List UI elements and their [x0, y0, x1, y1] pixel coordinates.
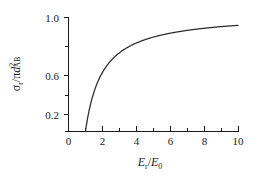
- x-axis-title: Er/E0: [137, 155, 163, 171]
- data-curve-reactive-cross-section: [85, 25, 238, 131]
- x-axis-minor-ticks: [86, 128, 222, 132]
- x-tick-label-10: 10: [233, 135, 245, 147]
- y-tick-label-1: 1.0: [45, 12, 59, 24]
- x-tick-label-8: 8: [202, 135, 208, 147]
- x-tick-label-0: 0: [66, 135, 72, 147]
- x-tick-label-2: 2: [100, 135, 106, 147]
- y-axis-minor-ticks: [65, 47, 69, 132]
- plot-area: 1.0 0.6 0.2 0 2 4 6 8 10 Er/E0: [0, 0, 253, 178]
- x-axis-title-sub-0: 0: [158, 162, 162, 171]
- reactive-cross-section-figure: 1.0 0.6 0.2 0 2 4 6 8 10 Er/E0: [0, 0, 253, 178]
- x-tick-label-6: 6: [168, 135, 174, 147]
- y-tick-label-3: 0.2: [45, 109, 59, 121]
- y-tick-label-2: 0.6: [45, 70, 59, 82]
- y-axis-title-sub-AB: AB: [13, 57, 22, 68]
- y-axis-major-ticks: [64, 18, 69, 115]
- y-axis-title: σr/πd2AB: [8, 57, 25, 92]
- x-tick-label-4: 4: [134, 135, 140, 147]
